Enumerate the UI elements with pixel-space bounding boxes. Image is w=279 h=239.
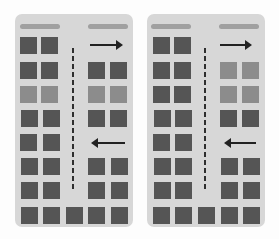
block <box>221 158 238 175</box>
block <box>221 182 238 199</box>
block-highlighted <box>41 86 58 103</box>
block <box>110 62 127 79</box>
block <box>154 158 171 175</box>
block <box>88 182 105 199</box>
block <box>110 110 127 127</box>
block <box>20 134 37 151</box>
block-highlighted <box>220 86 237 103</box>
block <box>175 134 192 151</box>
block <box>174 62 191 79</box>
diagram-canvas <box>0 0 279 239</box>
block <box>88 207 105 224</box>
block <box>174 37 191 54</box>
block <box>88 158 105 175</box>
dashed-divider <box>204 48 206 190</box>
block <box>88 62 105 79</box>
block <box>41 37 58 54</box>
block <box>21 182 38 199</box>
block <box>43 110 60 127</box>
arrow-left-icon <box>226 142 256 144</box>
block <box>242 110 259 127</box>
block <box>154 110 171 127</box>
block <box>20 62 37 79</box>
block <box>153 62 170 79</box>
block <box>175 182 192 199</box>
block-highlighted <box>88 86 105 103</box>
block <box>175 110 192 127</box>
block <box>243 182 260 199</box>
block <box>43 158 60 175</box>
block <box>43 182 60 199</box>
block <box>66 207 83 224</box>
block <box>153 86 170 103</box>
block <box>153 134 170 151</box>
block <box>111 207 128 224</box>
block <box>175 158 192 175</box>
header-bar-right <box>88 24 128 29</box>
block <box>43 134 60 151</box>
header-bar-left <box>20 24 60 29</box>
block <box>153 37 170 54</box>
block-highlighted <box>20 86 37 103</box>
block <box>88 110 105 127</box>
block <box>174 86 191 103</box>
block <box>220 110 237 127</box>
block <box>21 110 38 127</box>
block-highlighted <box>242 86 259 103</box>
block <box>41 62 58 79</box>
header-bar-left <box>151 24 191 29</box>
block <box>243 158 260 175</box>
block-highlighted <box>220 62 237 79</box>
block <box>20 37 37 54</box>
block <box>198 207 215 224</box>
block <box>243 207 260 224</box>
block <box>43 207 60 224</box>
header-bar-right <box>219 24 259 29</box>
block <box>154 182 171 199</box>
layout-panel-left <box>15 14 133 227</box>
block <box>153 207 170 224</box>
block <box>175 207 192 224</box>
layout-panel-right <box>147 14 265 227</box>
block <box>21 158 38 175</box>
arrow-right-icon <box>220 44 250 46</box>
block-highlighted <box>110 86 127 103</box>
block <box>111 182 128 199</box>
block <box>111 158 128 175</box>
dashed-divider <box>72 48 74 190</box>
block-highlighted <box>242 62 259 79</box>
arrow-right-icon <box>90 44 121 46</box>
block <box>21 207 38 224</box>
block <box>221 207 238 224</box>
arrow-left-icon <box>93 142 125 144</box>
